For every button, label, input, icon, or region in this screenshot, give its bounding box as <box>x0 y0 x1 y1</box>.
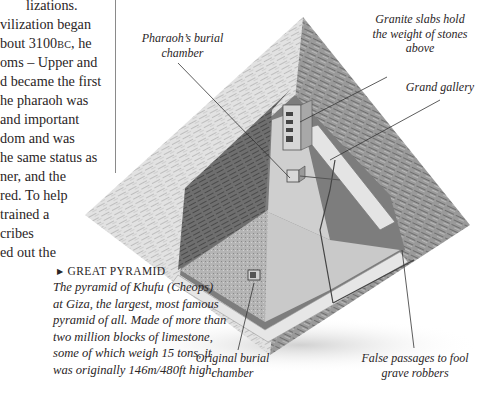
caption-line: at Giza, the largest, most famous <box>53 296 219 313</box>
figure-caption: ▶GREAT PYRAMID The pyramid of Khufu (Che… <box>53 263 228 280</box>
label-false-passages: False passages to fool grave robbers <box>355 351 475 380</box>
label-grand-gallery: Grand gallery <box>405 80 475 95</box>
triangle-arrow-icon: ▶ <box>57 267 64 276</box>
label-pharaohs-burial-chamber: Pharaoh’s burial chamber <box>140 31 225 60</box>
caption-line: pyramid of all. Made of more than <box>53 312 226 329</box>
original-burial-chamber <box>248 270 260 280</box>
kings-chamber-stack <box>283 100 312 150</box>
label-granite-slabs: Granite slabs hold the weight of stones … <box>370 12 470 56</box>
caption-line: The pyramid of Khufu (Cheops) <box>53 279 213 296</box>
caption-line: was originally 146m/480ft high. <box>53 362 215 379</box>
caption-line: some of which weigh 15 tons, it <box>53 345 211 362</box>
caption-heading: ▶GREAT PYRAMID <box>57 263 228 280</box>
caption-line: two million blocks of limestone, <box>53 329 213 346</box>
